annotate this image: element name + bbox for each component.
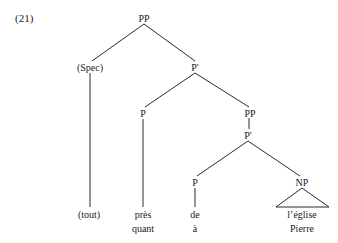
node-p-head-upper: P (140, 108, 146, 119)
leaf-spec-word: (tout) (78, 209, 100, 220)
node-p-bar-lower: P' (244, 130, 251, 141)
node-p-bar-upper: P' (191, 62, 198, 73)
leaf-np-word-2: Pierre (290, 223, 314, 234)
leaf-p-lower-word-2: à (193, 223, 197, 234)
leaf-np-word-1: l’église (287, 209, 316, 220)
node-p-head-lower: P (192, 177, 198, 188)
tree-branches (0, 0, 338, 243)
node-spec: (Spec) (77, 62, 103, 73)
leaf-p-upper-word-2: quant (132, 223, 154, 234)
node-pp-inner: PP (244, 108, 255, 119)
leaf-p-lower-word-1: de (190, 209, 199, 220)
node-root-pp: PP (138, 13, 149, 24)
node-np: NP (296, 177, 309, 188)
example-number: (21) (15, 12, 33, 24)
leaf-p-upper-word-1: près (135, 209, 152, 220)
